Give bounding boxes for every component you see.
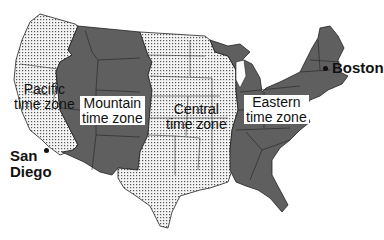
central-zone-line1: Central <box>166 102 227 117</box>
central-zone-label: Central time zone <box>166 102 227 131</box>
boston-line1: Boston <box>332 60 384 76</box>
pacific-zone-line1: Pacific <box>14 82 75 97</box>
boston-marker-icon <box>323 66 328 71</box>
san-diego-line2: Diego <box>10 164 52 180</box>
mountain-zone-label: Mountain time zone <box>80 96 145 125</box>
eastern-zone-label: Eastern time zone <box>244 95 309 124</box>
san-diego-line1: San <box>10 148 52 164</box>
eastern-zone-line2: time zone <box>246 110 307 125</box>
central-zone-line2: time zone <box>166 117 227 132</box>
eastern-zone-line1: Eastern <box>246 95 307 110</box>
mountain-zone-line2: time zone <box>82 111 143 126</box>
boston-label: Boston <box>332 60 384 76</box>
pacific-zone-label: Pacific time zone <box>14 82 75 111</box>
pacific-zone-line2: time zone <box>14 97 75 112</box>
san-diego-label: San Diego <box>10 148 52 180</box>
mountain-zone-line1: Mountain <box>82 96 143 111</box>
